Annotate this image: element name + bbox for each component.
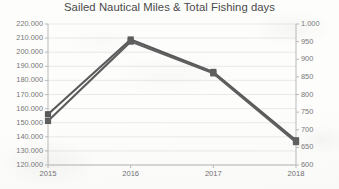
data-series-layer bbox=[45, 36, 299, 145]
data-point-2017-series2 bbox=[210, 70, 216, 76]
plot-area bbox=[0, 0, 339, 189]
axis-lines bbox=[45, 24, 299, 168]
chart-figure: Sailed Nautical Miles & Total Fishing da… bbox=[0, 0, 339, 189]
data-point-2015-series2 bbox=[45, 118, 51, 124]
data-point-2015-series1 bbox=[45, 111, 51, 117]
data-point-2016-series2 bbox=[128, 39, 134, 45]
gridlines bbox=[48, 24, 296, 165]
data-point-2018-series2 bbox=[293, 139, 299, 145]
